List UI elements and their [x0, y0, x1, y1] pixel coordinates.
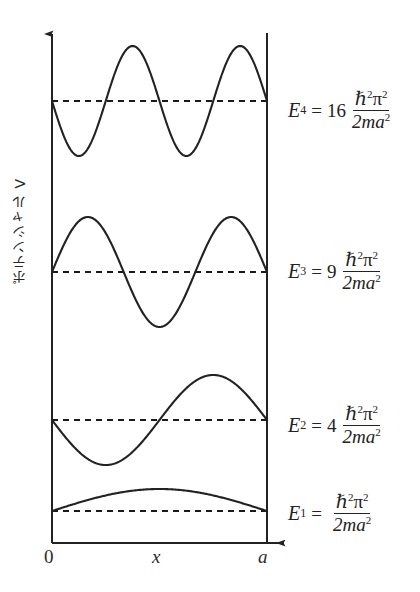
- denominator-exponent-e1: 2: [366, 514, 372, 526]
- energy-label-e1: E1 = ℏ2π2 2ma2: [288, 492, 373, 536]
- energy-subscript-e1: 1: [300, 506, 306, 521]
- wavefunction-curve-e2: [52, 375, 267, 465]
- fraction-numerator-e1: ℏ2π2: [334, 492, 371, 514]
- denominator-text-e4: 2ma: [352, 112, 385, 133]
- hbar-symbol-e4: ℏ: [355, 88, 367, 109]
- energy-label-e2: E2 = 4 ℏ2π2 2ma2: [288, 404, 383, 448]
- pi-exponent-e1: 2: [363, 491, 369, 503]
- energy-symbol-e2: E: [288, 414, 300, 437]
- fraction-numerator-e2: ℏ2π2: [343, 404, 380, 426]
- hbar-symbol-e3: ℏ: [345, 249, 357, 270]
- fraction-numerator-e4: ℏ2π2: [353, 89, 390, 111]
- energy-fraction-e2: ℏ2π2 2ma2: [340, 404, 382, 448]
- energy-fraction-e3: ℏ2π2 2ma2: [340, 250, 382, 294]
- denominator-exponent-e4: 2: [385, 111, 391, 123]
- equals-sign-e4: =: [311, 100, 322, 122]
- denominator-exponent-e3: 2: [375, 272, 381, 284]
- equals-sign-e2: =: [311, 415, 322, 437]
- energy-fraction-e4: ℏ2π2 2ma2: [350, 89, 392, 133]
- energy-symbol-e1: E: [288, 502, 300, 525]
- energy-coefficient-e4: 16: [327, 100, 346, 122]
- energy-label-e3: E3 = 9 ℏ2π2 2ma2: [288, 250, 383, 294]
- wavefunction-curve-e3: [52, 217, 267, 327]
- energy-coefficient-e3: 9: [327, 261, 337, 283]
- energy-subscript-e2: 2: [300, 418, 306, 433]
- pi-exponent-e2: 2: [372, 403, 378, 415]
- denominator-text-e2: 2ma: [342, 427, 375, 448]
- hbar-symbol-e1: ℏ: [336, 491, 348, 512]
- energy-symbol-e3: E: [288, 260, 300, 283]
- denominator-text-e3: 2ma: [342, 273, 375, 294]
- fraction-denominator-e4: 2ma2: [350, 111, 392, 132]
- x-tick-label-a: a: [258, 546, 268, 568]
- fraction-numerator-e3: ℏ2π2: [343, 250, 380, 272]
- wavefunction-curve-e1: [52, 489, 267, 511]
- denominator-exponent-e2: 2: [375, 426, 381, 438]
- y-axis-label: ポテンシャル V: [10, 178, 44, 284]
- infinite-square-well-figure: ポテンシャル V 0 x a E4 = 16 ℏ2π2 2ma2 E3 = 9 …: [0, 0, 420, 592]
- energy-symbol-e4: E: [288, 99, 300, 122]
- energy-subscript-e4: 4: [300, 103, 306, 118]
- denominator-text-e1: 2ma: [333, 515, 366, 536]
- energy-fraction-e1: ℏ2π2 2ma2: [331, 492, 373, 536]
- x-tick-label-x: x: [152, 546, 160, 568]
- fraction-denominator-e1: 2ma2: [331, 514, 373, 535]
- pi-exponent-e3: 2: [372, 249, 378, 261]
- hbar-symbol-e2: ℏ: [345, 403, 357, 424]
- energy-label-e4: E4 = 16 ℏ2π2 2ma2: [288, 89, 392, 133]
- energy-coefficient-e2: 4: [327, 415, 337, 437]
- x-tick-label-zero: 0: [44, 546, 54, 568]
- wavefunction-curve-e4: [52, 46, 267, 156]
- fraction-denominator-e2: 2ma2: [340, 426, 382, 447]
- pi-symbol-e4: π: [372, 88, 382, 109]
- energy-subscript-e3: 3: [300, 264, 306, 279]
- fraction-denominator-e3: 2ma2: [340, 272, 382, 293]
- equals-sign-e3: =: [311, 261, 322, 283]
- pi-symbol-e1: π: [353, 491, 363, 512]
- pi-exponent-e4: 2: [382, 88, 388, 100]
- equals-sign-e1: =: [311, 503, 322, 525]
